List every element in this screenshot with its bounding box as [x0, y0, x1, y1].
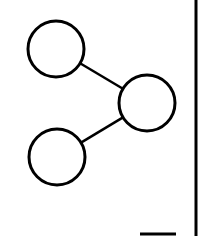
node-bottom-left	[29, 129, 85, 185]
edge-bottom-left-to-right	[81, 117, 123, 142]
node-top-left	[28, 21, 84, 77]
edges	[80, 63, 123, 142]
node-right	[119, 75, 175, 131]
diagram-canvas	[0, 0, 200, 236]
nodes	[28, 21, 175, 185]
edge-top-left-to-right	[80, 63, 123, 88]
